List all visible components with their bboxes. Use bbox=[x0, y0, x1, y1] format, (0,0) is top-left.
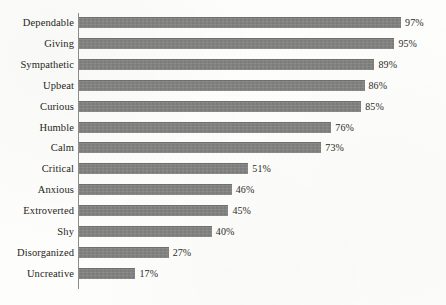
bar-fill bbox=[79, 205, 228, 216]
bar-row: Curious85% bbox=[0, 100, 446, 121]
bar bbox=[79, 59, 374, 70]
category-label: Calm bbox=[0, 141, 74, 154]
bar bbox=[79, 205, 228, 216]
bar-row: Calm73% bbox=[0, 141, 446, 162]
bar-fill bbox=[79, 101, 361, 112]
category-label: Sympathetic bbox=[0, 58, 74, 71]
bar bbox=[79, 80, 365, 91]
bar-row: Upbeat86% bbox=[0, 79, 446, 100]
plot-area: Dependable97%Giving95%Sympathetic89%Upbe… bbox=[0, 0, 446, 305]
bar-row: Humble76% bbox=[0, 121, 446, 142]
category-label: Anxious bbox=[0, 183, 74, 196]
bar-value-label: 76% bbox=[335, 121, 354, 134]
bar-value-label: 73% bbox=[325, 141, 344, 154]
bar-row: Sympathetic89% bbox=[0, 58, 446, 79]
bar-value-label: 46% bbox=[236, 183, 255, 196]
bar bbox=[79, 247, 169, 258]
bar-value-label: 95% bbox=[398, 37, 417, 50]
bar-fill bbox=[79, 38, 394, 49]
bar-row: Critical51% bbox=[0, 162, 446, 183]
bar-value-label: 27% bbox=[173, 246, 192, 259]
bar-value-label: 89% bbox=[378, 58, 397, 71]
bar-value-label: 86% bbox=[369, 79, 388, 92]
bar bbox=[79, 268, 135, 279]
bar bbox=[79, 17, 401, 28]
bar-value-label: 40% bbox=[216, 225, 235, 238]
bar-row: Giving95% bbox=[0, 37, 446, 58]
bar-row: Uncreative17% bbox=[0, 267, 446, 288]
category-label: Curious bbox=[0, 100, 74, 113]
bar-value-label: 85% bbox=[365, 100, 384, 113]
category-label: Disorganized bbox=[0, 246, 74, 259]
bar-fill bbox=[79, 184, 232, 195]
bar-fill bbox=[79, 17, 401, 28]
category-label: Giving bbox=[0, 37, 74, 50]
bar-fill bbox=[79, 122, 331, 133]
bar-fill bbox=[79, 226, 212, 237]
bar-row: Anxious46% bbox=[0, 183, 446, 204]
bar-value-label: 51% bbox=[252, 162, 271, 175]
bar bbox=[79, 184, 232, 195]
category-label: Dependable bbox=[0, 16, 74, 29]
category-label: Extroverted bbox=[0, 204, 74, 217]
bar-fill bbox=[79, 247, 169, 258]
category-label: Upbeat bbox=[0, 79, 74, 92]
bar bbox=[79, 38, 394, 49]
bar bbox=[79, 226, 212, 237]
category-label: Critical bbox=[0, 162, 74, 175]
category-label: Humble bbox=[0, 121, 74, 134]
bar-fill bbox=[79, 142, 321, 153]
bar-value-label: 97% bbox=[405, 16, 424, 29]
bar bbox=[79, 142, 321, 153]
bar-fill bbox=[79, 163, 248, 174]
bar-row: Disorganized27% bbox=[0, 246, 446, 267]
bar-fill bbox=[79, 80, 365, 91]
bar-row: Dependable97% bbox=[0, 16, 446, 37]
bar-fill bbox=[79, 268, 135, 279]
bar bbox=[79, 163, 248, 174]
bar-row: Shy40% bbox=[0, 225, 446, 246]
bar bbox=[79, 122, 331, 133]
bar-chart: Dependable97%Giving95%Sympathetic89%Upbe… bbox=[0, 0, 446, 305]
bar bbox=[79, 101, 361, 112]
bar-value-label: 17% bbox=[139, 267, 158, 280]
category-label: Shy bbox=[0, 225, 74, 238]
bar-row: Extroverted45% bbox=[0, 204, 446, 225]
bar-value-label: 45% bbox=[232, 204, 251, 217]
category-label: Uncreative bbox=[0, 267, 74, 280]
bar-fill bbox=[79, 59, 374, 70]
